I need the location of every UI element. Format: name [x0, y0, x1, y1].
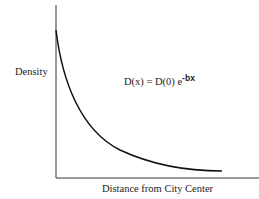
chart-canvas: [0, 0, 259, 199]
equation-text: D(x) = D(0) e: [124, 76, 182, 87]
y-axis-label: Density: [15, 66, 48, 77]
density-curve: [56, 30, 222, 171]
equation-exponent: -bx: [182, 73, 195, 83]
x-axis-label: Distance from City Center: [102, 183, 213, 194]
equation-annotation: D(x) = D(0) e-bx: [124, 73, 195, 87]
